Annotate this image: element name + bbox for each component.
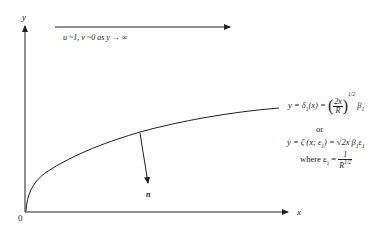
where-label: where ε bbox=[300, 154, 326, 164]
eq2-end-sub: 1 bbox=[362, 143, 365, 149]
equation-zeta: y = ζ (x; ε1) = √2x β1ε1 bbox=[287, 138, 365, 149]
normal-vector-arrow bbox=[140, 133, 148, 183]
where-den-exp: 1/2 bbox=[344, 159, 351, 165]
freestream-condition: u ~1, v ~0 as y → ∞ bbox=[63, 34, 128, 42]
where-fraction: 1R1/2 bbox=[338, 151, 352, 170]
eq1-den: R bbox=[333, 107, 343, 115]
where-eq: = bbox=[329, 154, 336, 164]
where-den-wrap: R1/2 bbox=[338, 160, 352, 170]
eq2-lhs: y = ζ (x; ε bbox=[287, 137, 321, 147]
eq2-rest: ) = √2x β bbox=[324, 137, 356, 147]
x-axis-label: x bbox=[297, 208, 301, 217]
normal-vector-label: n bbox=[146, 191, 150, 199]
equation-epsilon-definition: where ε1 = 1R1/2 bbox=[300, 151, 352, 170]
equation-boundary-layer-thickness: y = δ1(x) = (2xR)1/2 β1 bbox=[288, 92, 364, 115]
eq1-rhs-sub: 1 bbox=[362, 106, 365, 112]
or-label: or bbox=[316, 125, 323, 134]
boundary-layer-curve bbox=[26, 108, 279, 211]
eq1-lhs: y = δ bbox=[288, 100, 306, 110]
eq1-mid: (x) = bbox=[308, 100, 325, 110]
y-axis-label: y bbox=[22, 13, 26, 22]
origin-label: 0 bbox=[18, 214, 23, 223]
eq1-fraction: 2xR bbox=[333, 98, 343, 115]
eq1-exp: 1/2 bbox=[348, 91, 355, 97]
